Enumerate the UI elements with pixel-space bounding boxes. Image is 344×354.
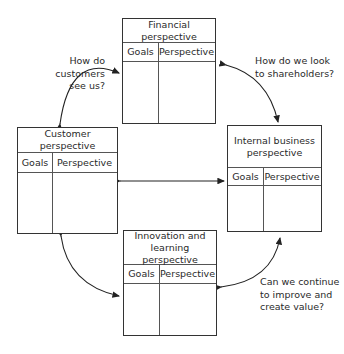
innovation-title: Innovation and learning perspective: [124, 231, 216, 265]
innovation-goals-label: Goals: [124, 264, 159, 283]
customer-perspective-label: Perspective: [52, 152, 117, 172]
innovation-column-divider: [159, 264, 160, 335]
customer-title: Customer perspective: [18, 128, 117, 153]
financial-title: Financial perspective: [123, 19, 215, 43]
financial-header-row: Goals Perspective: [123, 42, 215, 62]
internal-header-row: Goals Perspective: [228, 167, 321, 186]
question-shareholders: How do we look to shareholders?: [255, 55, 334, 80]
financial-column-divider: [158, 42, 159, 123]
internal-perspective-label: Perspective: [263, 167, 321, 185]
arrow-customer-innovation: [61, 236, 119, 296]
financial-perspective-box: Financial perspective Goals Perspective: [122, 18, 216, 124]
internal-business-perspective-box: Internal business perspective Goals Pers…: [227, 125, 322, 232]
internal-title: Internal business perspective: [228, 126, 321, 168]
customer-header-row: Goals Perspective: [18, 152, 117, 173]
innovation-learning-perspective-box: Innovation and learning perspective Goal…: [123, 230, 217, 336]
financial-perspective-label: Perspective: [158, 42, 215, 61]
question-improve: Can we continue to improve and create va…: [260, 276, 339, 314]
internal-column-divider: [263, 167, 264, 231]
innovation-perspective-label: Perspective: [159, 264, 216, 283]
financial-goals-label: Goals: [123, 42, 158, 61]
customer-goals-label: Goals: [18, 152, 52, 172]
internal-goals-label: Goals: [228, 167, 263, 185]
customer-column-divider: [52, 152, 53, 233]
innovation-header-row: Goals Perspective: [124, 264, 216, 284]
question-customers: How do customers see us?: [21, 55, 105, 93]
customer-perspective-box: Customer perspective Goals Perspective: [17, 127, 118, 234]
